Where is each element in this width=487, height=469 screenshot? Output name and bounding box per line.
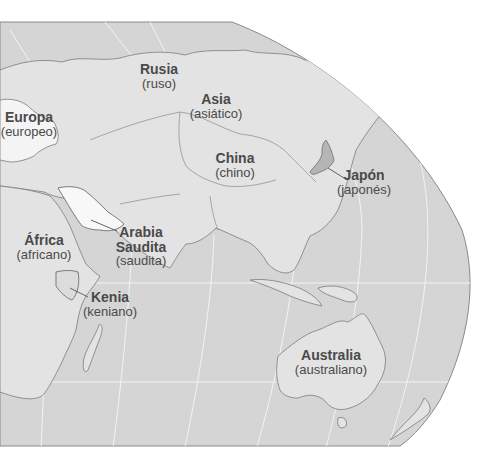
label-asia-name: Asia bbox=[186, 92, 246, 107]
label-china-adj: (chino) bbox=[210, 166, 260, 180]
label-arabia-adj: (saudita) bbox=[113, 254, 169, 268]
label-europa-adj: (europeo) bbox=[0, 125, 64, 139]
label-rusia-name: Rusia bbox=[134, 62, 184, 77]
label-kenia-name: Kenia bbox=[82, 290, 138, 305]
label-arabia-saudita: Arabia Saudita (saudita) bbox=[113, 225, 169, 268]
label-arabia-line1: Arabia bbox=[113, 225, 169, 240]
label-japon-name: Japón bbox=[334, 168, 394, 183]
label-japon-adj: (japonés) bbox=[334, 183, 394, 197]
tasmania bbox=[338, 417, 347, 427]
label-rusia-adj: (ruso) bbox=[134, 77, 184, 91]
label-australia-name: Australia bbox=[291, 348, 371, 363]
label-china: China (chino) bbox=[210, 151, 260, 179]
label-china-name: China bbox=[210, 151, 260, 166]
label-asia-adj: (asiático) bbox=[186, 107, 246, 121]
label-africa-adj: (africano) bbox=[12, 248, 76, 262]
label-australia-adj: (australiano) bbox=[291, 363, 371, 377]
label-africa: África (africano) bbox=[12, 233, 76, 261]
label-asia: Asia (asiático) bbox=[186, 92, 246, 120]
label-rusia: Rusia (ruso) bbox=[134, 62, 184, 90]
label-africa-name: África bbox=[12, 233, 76, 248]
label-japon: Japón (japonés) bbox=[334, 168, 394, 196]
label-kenia-adj: (keniano) bbox=[82, 305, 138, 319]
label-europa-name: Europa bbox=[0, 110, 64, 125]
label-kenia: Kenia (keniano) bbox=[82, 290, 138, 318]
label-arabia-line2: Saudita bbox=[113, 240, 169, 255]
label-europa: Europa (europeo) bbox=[0, 110, 64, 138]
label-australia: Australia (australiano) bbox=[291, 348, 371, 376]
